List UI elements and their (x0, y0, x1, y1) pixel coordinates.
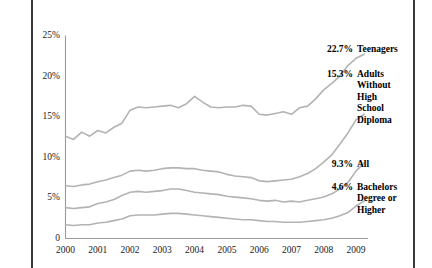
x-tick-label: 2008 (314, 245, 333, 256)
series-annotation-name: Degree or (357, 193, 397, 204)
x-tick-label: 2004 (185, 245, 204, 256)
y-tick-label: 10% (43, 152, 60, 162)
series-annotation-value: 4.6% (332, 182, 357, 193)
series-line-teenagers (66, 54, 365, 139)
series-annotation: 4.6%BachelorsDegree orHigher (357, 182, 397, 216)
series-annotation: 15.3%AdultsWithoutHighSchoolDiploma (357, 69, 392, 126)
y-tick-label: 0 (55, 233, 60, 243)
x-tick-label: 2007 (282, 245, 301, 256)
chart-figure: 05%10%15%20%25% 200020012002200320042005… (0, 0, 432, 268)
series-annotation-name: High (357, 92, 392, 103)
series-annotation: 9.3%All (357, 159, 369, 170)
series-annotation-name: Diploma (357, 115, 392, 126)
chart-axis (66, 36, 369, 239)
series-annotation-name: Without (357, 80, 392, 91)
series-annotation-name: Higher (357, 205, 397, 216)
line-chart-plot (0, 0, 432, 268)
series-line-adults-without-high-school-diploma (66, 114, 365, 186)
y-axis-tick-labels: 05%10%15%20%25% (34, 0, 60, 268)
series-annotation-name: School (357, 103, 392, 114)
y-tick-label: 15% (43, 111, 60, 121)
x-tick-label: 2001 (88, 245, 107, 256)
y-tick-label: 20% (43, 71, 60, 81)
series-annotation-name: Adults (357, 69, 392, 80)
x-tick-label: 2005 (217, 245, 236, 256)
x-tick-label: 2006 (250, 245, 269, 256)
x-tick-label: 2000 (56, 245, 75, 256)
y-tick-label: 5% (47, 192, 60, 202)
x-tick-label: 2009 (347, 245, 366, 256)
series-annotation-name: Teenagers (357, 44, 398, 55)
series-line-all (66, 163, 365, 208)
series-annotation-value: 9.3% (332, 159, 357, 170)
series-annotation-name: All (357, 159, 369, 170)
y-tick-label: 25% (43, 30, 60, 40)
series-annotation-name: Bachelors (357, 182, 397, 193)
x-tick-label: 2003 (153, 245, 172, 256)
series-annotation-value: 15.3% (327, 69, 357, 80)
x-tick-label: 2002 (121, 245, 140, 256)
series-line-bachelors-degree-or-higher (66, 201, 365, 225)
series-annotation-value: 22.7% (327, 44, 357, 55)
chart-svg (0, 0, 432, 268)
x-axis-tick-labels: 2000200120022003200420052006200720082009 (0, 243, 432, 259)
series-annotation: 22.7%Teenagers (357, 44, 398, 55)
